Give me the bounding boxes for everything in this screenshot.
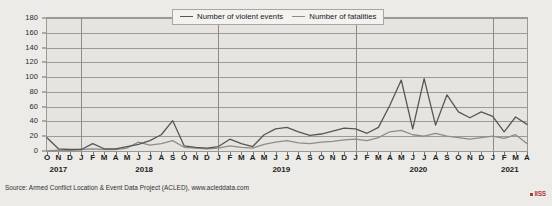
year-label: 2019: [272, 166, 290, 174]
x-tick-label: M: [238, 154, 245, 162]
x-tick-label: S: [444, 154, 449, 162]
x-tick-label: M: [261, 154, 268, 162]
y-tick-label: 180: [25, 14, 38, 22]
x-tick-label: J: [490, 154, 494, 162]
y-tick-label: 120: [25, 59, 38, 67]
year-label: 2021: [501, 166, 519, 174]
source-note: Source: Armed Conflict Location & Event …: [5, 185, 249, 191]
y-tick-label: 140: [25, 44, 38, 52]
legend-line-swatch: [180, 16, 193, 17]
legend-item-violent-events: Number of violent events: [180, 13, 283, 21]
x-tick-label: D: [478, 154, 484, 162]
x-tick-label: F: [365, 154, 370, 162]
chart-legend: Number of violent eventsNumber of fatali…: [172, 9, 384, 25]
x-tick-label: O: [455, 154, 461, 162]
x-tick-label: N: [56, 154, 62, 162]
x-tick-label: O: [181, 154, 187, 162]
y-tick-label: 20: [29, 132, 38, 140]
x-tick-label: M: [512, 154, 519, 162]
plot-area: [46, 17, 528, 152]
x-tick-label: A: [524, 154, 530, 162]
x-tick-label: J: [285, 154, 289, 162]
y-axis-labels: 020406080100120140160180: [0, 17, 44, 152]
year-label: 2018: [135, 166, 153, 174]
x-tick-label: J: [422, 154, 426, 162]
x-tick-label: J: [148, 154, 152, 162]
x-tick-label: A: [387, 154, 393, 162]
legend-label: Number of violent events: [197, 13, 283, 21]
line-number-of-violent-events: [47, 79, 527, 150]
x-tick-label: S: [307, 154, 312, 162]
legend-label: Number of fatalities: [309, 13, 376, 21]
x-tick-label: A: [296, 154, 302, 162]
x-tick-label: D: [204, 154, 210, 162]
x-tick-label: J: [216, 154, 220, 162]
iiss-logo: IISS: [530, 191, 546, 198]
x-tick-label: F: [502, 154, 507, 162]
x-tick-label: J: [136, 154, 140, 162]
x-tick-label: O: [44, 154, 50, 162]
y-tick-label: 160: [25, 29, 38, 37]
year-label: 2020: [410, 166, 428, 174]
y-tick-label: 0: [34, 147, 38, 155]
x-tick-label: F: [90, 154, 95, 162]
x-tick-label: F: [227, 154, 232, 162]
legend-line-swatch: [292, 16, 305, 17]
y-tick-label: 40: [29, 118, 38, 126]
x-axis-year-labels: 20172018201920202021: [46, 166, 528, 180]
legend-item-fatalities: Number of fatalities: [292, 13, 376, 21]
data-lines: [47, 18, 527, 151]
x-tick-label: J: [410, 154, 414, 162]
x-tick-label: M: [101, 154, 108, 162]
x-tick-label: J: [79, 154, 83, 162]
x-tick-label: D: [67, 154, 73, 162]
y-tick-label: 80: [29, 88, 38, 96]
x-tick-label: D: [341, 154, 347, 162]
x-tick-label: S: [170, 154, 175, 162]
x-tick-label: A: [433, 154, 439, 162]
y-tick-label: 100: [25, 73, 38, 81]
x-tick-label: A: [113, 154, 119, 162]
x-tick-label: A: [158, 154, 164, 162]
x-tick-label: O: [318, 154, 324, 162]
x-tick-label: J: [273, 154, 277, 162]
x-tick-label: N: [330, 154, 336, 162]
x-tick-label: N: [467, 154, 473, 162]
y-tick-label: 60: [29, 103, 38, 111]
x-tick-label: J: [353, 154, 357, 162]
logo-mark: [530, 193, 533, 196]
year-label: 2017: [50, 166, 68, 174]
logo-text: IISS: [535, 191, 546, 198]
x-tick-label: A: [250, 154, 256, 162]
x-tick-label: M: [375, 154, 382, 162]
chart-figure: 020406080100120140160180 ONDJFMAMJJASOND…: [0, 0, 552, 206]
x-tick-label: M: [124, 154, 131, 162]
x-tick-label: N: [193, 154, 199, 162]
x-tick-label: M: [398, 154, 405, 162]
